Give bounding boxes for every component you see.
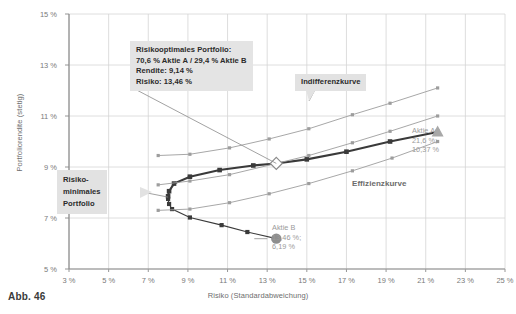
x-axis-tick-label: 19 %: [378, 276, 395, 285]
annotation-indifference-curve: Indifferenzkurve: [295, 74, 366, 91]
data-point-marker: [167, 189, 172, 194]
data-point-marker: [351, 141, 354, 144]
data-point-marker: [388, 139, 393, 144]
x-axis-tick-label: 21 %: [417, 276, 434, 285]
data-point-marker: [245, 230, 249, 234]
figure-caption: Abb. 46: [8, 291, 46, 302]
x-axis-tick-label: 9 %: [181, 276, 194, 285]
y-axis-tick-label: 13 %: [40, 61, 57, 70]
data-point-marker: [307, 182, 310, 185]
data-point-marker: [220, 223, 224, 227]
x-axis-title: Risiko (Standardabweichung): [0, 291, 516, 300]
data-point-marker: [388, 102, 391, 105]
data-point-marker: [351, 113, 354, 116]
marker-optimal-portfolio: [270, 157, 282, 169]
x-axis-tick-label: 13 %: [259, 276, 276, 285]
data-point-marker: [351, 169, 354, 172]
data-point-marker: [344, 149, 349, 154]
point-label-aktie-b: Aktie B 13,46 %; 6,19 %: [272, 223, 301, 252]
data-point-marker: [251, 163, 256, 168]
figure-container: 3 %5 %7 %9 %11 %13 %15 %17 %19 %21 %23 %…: [0, 0, 516, 314]
data-point-marker: [188, 215, 192, 219]
callout-tail-minvar: [140, 187, 152, 198]
data-point-marker: [188, 179, 191, 182]
data-point-marker: [307, 154, 310, 157]
x-axis-tick-label: 17 %: [338, 276, 355, 285]
data-point-marker: [167, 202, 171, 206]
data-point-marker: [436, 86, 439, 89]
x-axis-tick-label: 25 %: [496, 276, 513, 285]
data-point-marker: [228, 173, 231, 176]
x-axis-tick-label: 23 %: [457, 276, 474, 285]
annotation-optimal-portfolio: Risikooptimales Portfolio: 70,6 % Aktie …: [130, 41, 253, 91]
data-point-marker: [157, 209, 160, 212]
data-point-marker: [228, 201, 231, 204]
y-axis-title: Portfoliorendite (stetig): [15, 68, 24, 198]
annotation-minimum-variance-portfolio: Risiko- minimales Portfolio: [57, 170, 107, 214]
data-point-marker: [157, 154, 160, 157]
y-axis-tick-label: 5 %: [44, 265, 57, 274]
y-axis-tick-label: 9 %: [44, 163, 57, 172]
x-axis-tick-label: 5 %: [102, 276, 115, 285]
data-point-marker: [188, 207, 191, 210]
series-line: [158, 142, 437, 211]
y-axis-tick-label: 11 %: [40, 112, 57, 121]
data-point-marker: [228, 146, 231, 149]
data-point-marker: [157, 183, 160, 186]
series-line: [158, 88, 437, 156]
data-point-marker: [388, 130, 391, 133]
x-axis-tick-label: 7 %: [142, 276, 155, 285]
data-point-marker: [170, 207, 174, 211]
data-point-marker: [268, 192, 271, 195]
data-point-marker: [188, 174, 193, 179]
annotation-efficient-frontier: Effizienzkurve: [352, 179, 407, 190]
x-axis-tick-label: 15 %: [298, 276, 315, 285]
data-point-marker: [188, 153, 191, 156]
data-point-marker: [217, 168, 222, 173]
series-line: [168, 199, 276, 239]
data-point-marker: [436, 114, 439, 117]
data-point-marker: [390, 156, 393, 159]
chart-canvas: 3 %5 %7 %9 %11 %13 %15 %17 %19 %21 %23 %…: [0, 0, 516, 314]
y-axis-tick-label: 15 %: [40, 10, 57, 19]
data-point-marker: [305, 157, 310, 162]
data-point-marker: [166, 197, 170, 201]
data-point-marker: [268, 137, 271, 140]
x-axis-tick-label: 3 %: [63, 276, 76, 285]
point-label-aktie-a: Aktie A 21,6 %; 10,37 %: [412, 126, 439, 155]
y-axis-tick-label: 7 %: [44, 214, 57, 223]
x-axis-tick-label: 11 %: [219, 276, 236, 285]
data-point-marker: [307, 127, 310, 130]
